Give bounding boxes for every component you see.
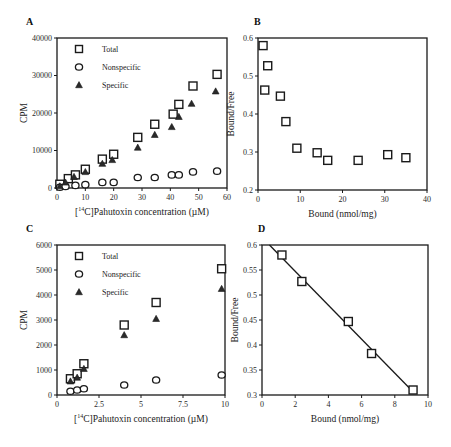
y-tick-label: 1000: [36, 366, 52, 375]
panel-b: B0.20.30.40.50.6010203040Bound (nmol/mg)…: [226, 16, 431, 220]
y-tick-label: 4000: [36, 291, 52, 300]
data-point-circle: [213, 168, 220, 174]
y-tick-label: 20000: [32, 109, 52, 118]
series-bound-free: [278, 251, 417, 394]
x-tick-label: 50: [195, 193, 203, 202]
data-point-circle: [67, 388, 74, 394]
x-tick-label: 40: [166, 193, 174, 202]
data-point-circle: [99, 179, 106, 185]
data-point-circle: [153, 377, 160, 383]
data-point-triangle: [76, 289, 83, 295]
data-point-circle: [168, 172, 175, 178]
figure-canvas: A0100002000030000400000102030405060[14C]…: [0, 0, 451, 447]
y-axis: 0100020003000400050006000: [36, 241, 57, 400]
x-tick-label: 10: [424, 400, 432, 409]
legend-label: Total: [102, 45, 119, 54]
legend-label: Specific: [102, 288, 129, 297]
y-tick-label: 0.6: [243, 34, 253, 43]
data-point-square: [110, 150, 118, 158]
data-point-square: [259, 42, 267, 50]
data-point-square: [298, 278, 306, 286]
data-point-triangle: [218, 285, 225, 291]
panel-letter: C: [26, 223, 33, 234]
y-tick-label: 0.45: [243, 316, 257, 325]
data-point-circle: [82, 181, 89, 187]
series-nonspecific: [67, 372, 225, 395]
y-tick-label: 0.4: [247, 341, 257, 350]
figure: A0100002000030000400000102030405060[14C]…: [0, 0, 451, 447]
data-point-square: [261, 86, 269, 94]
series-specific: [67, 285, 225, 384]
y-tick-label: 10000: [32, 146, 52, 155]
data-point-square: [276, 92, 284, 100]
data-point-triangle: [121, 332, 128, 338]
data-point-triangle: [153, 315, 160, 321]
data-point-square: [213, 70, 221, 78]
x-tick-label: 6: [360, 400, 364, 409]
x-tick-label: 0: [55, 400, 59, 409]
data-point-square: [152, 299, 160, 307]
panel-letter: B: [254, 16, 261, 27]
data-point-square: [409, 386, 417, 394]
data-point-square: [151, 120, 159, 128]
data-point-circle: [175, 172, 182, 178]
data-point-square: [384, 151, 392, 159]
regression-line: [269, 245, 414, 394]
x-tick-label: 20: [339, 195, 347, 204]
y-axis-title: CPM: [19, 309, 29, 330]
data-point-circle: [134, 174, 141, 180]
data-point-triangle: [76, 82, 83, 88]
data-point-triangle: [151, 131, 158, 137]
data-point-circle: [75, 271, 82, 277]
data-point-square: [278, 251, 286, 259]
plot-frame: [258, 38, 427, 190]
data-point-square: [169, 110, 177, 118]
y-tick-label: 5000: [36, 266, 52, 275]
x-tick-label: 10: [221, 400, 229, 409]
legend: TotalNonspecificSpecific: [75, 45, 141, 90]
data-point-circle: [74, 387, 81, 393]
x-tick-label: 0: [256, 195, 260, 204]
series-bound-free: [259, 42, 410, 165]
data-point-square: [354, 156, 362, 164]
y-axis: 010000200003000040000: [32, 34, 57, 193]
y-tick-label: 30000: [32, 71, 52, 80]
data-point-square: [313, 149, 321, 157]
x-tick-label: 5: [139, 400, 143, 409]
y-axis-title: Bound/Free: [226, 92, 236, 137]
data-point-square: [175, 100, 183, 108]
data-point-circle: [80, 386, 87, 392]
data-point-triangle: [212, 88, 219, 94]
panel-a: A0100002000030000400000102030405060[14C]…: [19, 16, 231, 218]
data-point-triangle: [188, 100, 195, 106]
data-point-square: [368, 350, 376, 358]
legend: TotalNonspecificSpecific: [75, 252, 141, 297]
data-point-square: [282, 118, 290, 126]
data-point-square: [120, 321, 128, 329]
panel-d: D0.30.350.40.450.50.550.60246810Bound (n…: [230, 223, 432, 425]
x-tick-label: 2: [293, 400, 297, 409]
y-tick-label: 3000: [36, 316, 52, 325]
y-tick-label: 0.55: [243, 266, 257, 275]
data-point-square: [76, 46, 83, 53]
y-tick-label: 40000: [32, 34, 52, 43]
data-point-square: [76, 253, 83, 260]
x-tick-label: 60: [223, 193, 231, 202]
x-tick-label: 0: [55, 193, 59, 202]
data-point-square: [218, 265, 226, 273]
data-point-circle: [151, 174, 158, 180]
data-point-circle: [110, 179, 117, 185]
plot-frame: [57, 245, 225, 395]
y-tick-label: 0.6: [247, 241, 257, 250]
x-axis-title: [14C]Pahutoxin concentration (µM): [75, 206, 209, 218]
panel-c: C010002000300040005000600002.557.510[14C…: [19, 223, 229, 425]
x-axis-title: Bound (nmol/mg): [311, 414, 379, 425]
data-point-circle: [75, 64, 82, 70]
legend-label: Specific: [102, 81, 129, 90]
panel-letter: D: [258, 223, 265, 234]
y-axis: 0.20.30.40.50.6: [243, 34, 258, 195]
data-point-circle: [218, 372, 225, 378]
y-tick-label: 0.35: [243, 366, 257, 375]
x-tick-label: 30: [381, 195, 389, 204]
x-tick-label: 7.5: [178, 400, 188, 409]
